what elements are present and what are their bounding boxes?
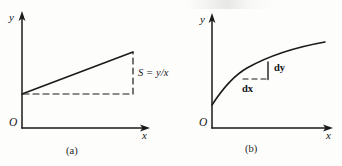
linear-function-line-a [22, 52, 133, 94]
dx-annotation: dx [242, 84, 253, 95]
panel-b-drawing [171, 0, 342, 166]
y-axis-label-a: y [9, 12, 14, 23]
panel-a: y x O S = y/x (a) [0, 0, 171, 166]
figure-root: y x O S = y/x (a) y x O [0, 0, 342, 166]
caption-a: (a) [66, 145, 78, 156]
origin-label-a: O [9, 117, 17, 129]
panel-b: y x O dx dy (b) [171, 0, 342, 166]
slope-formula-annotation: S = y/x [138, 68, 169, 79]
y-axis-label-b: y [200, 14, 205, 25]
dy-annotation: dy [274, 63, 285, 74]
caption-b: (b) [245, 143, 257, 154]
x-axis-label-a: x [142, 130, 147, 141]
origin-label-b: O [199, 117, 207, 129]
panel-a-drawing [0, 0, 171, 166]
x-axis-label-b: x [326, 130, 331, 141]
